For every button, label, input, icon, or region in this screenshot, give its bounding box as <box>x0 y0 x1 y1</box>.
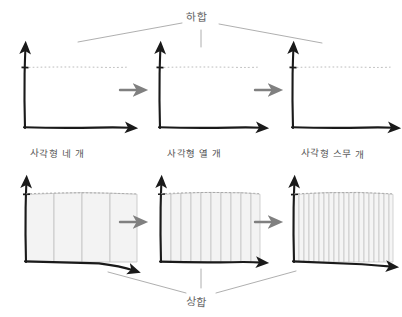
connector-top-right <box>219 24 322 43</box>
x-axis <box>292 127 394 128</box>
connector-fan-top <box>78 23 322 47</box>
reference-dashed-line <box>160 67 259 68</box>
connector-fan-bottom <box>108 269 296 293</box>
x-axis <box>24 127 131 128</box>
column-label-four-rectangles: 사각형 네 개 <box>30 145 85 160</box>
connector-top-left <box>78 23 182 42</box>
y-axis <box>24 48 25 128</box>
label-lower-sum: 하합 <box>186 8 208 25</box>
connector-bottom-left <box>108 272 186 293</box>
panel-lower-sum-4 <box>22 48 132 128</box>
x-axis <box>160 262 262 263</box>
y-axis <box>292 48 293 128</box>
y-axis <box>159 48 160 128</box>
x-axis <box>25 261 134 270</box>
panel-upper-sum-20 <box>291 182 393 267</box>
panel-upper-sum-10 <box>158 182 262 263</box>
connector-bottom-right <box>216 271 296 293</box>
panel-lower-sum-20 <box>290 48 395 128</box>
bars-upper-sum-20 <box>294 192 393 262</box>
bars-upper-sum-10 <box>161 192 260 262</box>
x-axis <box>159 127 262 128</box>
bars-upper-sum-4 <box>26 193 137 262</box>
figure-canvas: 하합 사각형 네 개 사각형 열 개 사각형 스무 개 상합 <box>0 0 402 317</box>
column-label-twenty-rectangles: 사각형 스무 개 <box>301 145 365 161</box>
reference-dashed-line <box>25 67 128 68</box>
panel-lower-sum-10 <box>157 48 263 128</box>
label-upper-sum: 상합 <box>186 292 208 309</box>
reference-dashed-line <box>293 67 391 68</box>
column-label-ten-rectangles: 사각형 열 개 <box>167 146 222 161</box>
panel-upper-sum-4 <box>23 182 137 271</box>
